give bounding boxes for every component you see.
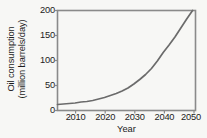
- chart-figure: Oil consumption (million barrels/day) 20…: [0, 0, 207, 138]
- plot-area: [0, 0, 207, 138]
- plot-frame: [58, 11, 196, 111]
- oil-consumption-curve: [58, 11, 193, 105]
